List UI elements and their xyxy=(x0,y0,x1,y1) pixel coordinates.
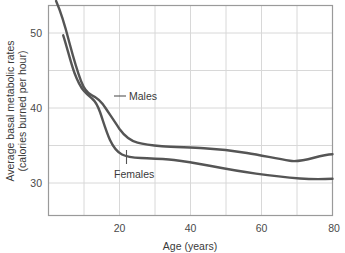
chart-container: Males Females 50 40 30 20 40 60 80 Age (… xyxy=(0,0,345,253)
males-series-label: Males xyxy=(129,90,157,102)
ytick-label-50: 50 xyxy=(30,27,42,39)
ytick-label-30: 30 xyxy=(30,177,42,189)
xtick-label-60: 60 xyxy=(256,222,268,234)
females-series-label: Females xyxy=(114,168,154,180)
xtick-label-20: 20 xyxy=(114,222,126,234)
y-axis-title-line2: (calories burned per hour) xyxy=(16,51,28,172)
xtick-label-80: 80 xyxy=(328,222,340,234)
y-axis-title-line1: Average basal metabolic rates xyxy=(4,40,16,181)
xtick-label-40: 40 xyxy=(185,222,197,234)
metabolic-rate-line-chart: Males Females 50 40 30 20 40 60 80 Age (… xyxy=(0,0,345,253)
x-axis-title: Age (years) xyxy=(163,240,217,252)
ytick-label-40: 40 xyxy=(30,102,42,114)
